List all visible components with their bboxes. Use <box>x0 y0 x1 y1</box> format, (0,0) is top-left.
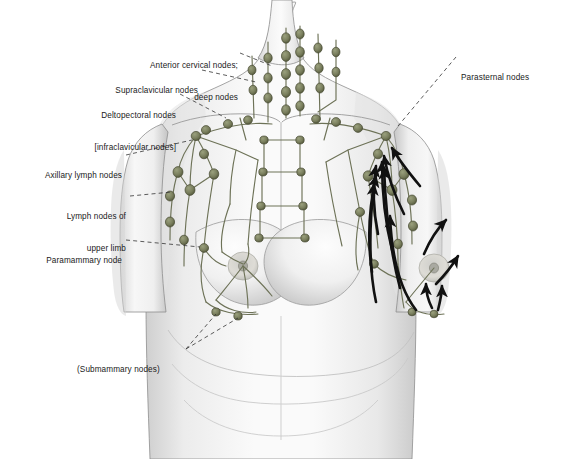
node-supraclavicular <box>312 115 321 123</box>
node-submammary <box>234 312 242 320</box>
node-parasternal <box>257 202 265 210</box>
node-cervical-deep <box>315 63 323 73</box>
node-cervical <box>282 105 291 115</box>
node-submammary-r <box>430 310 438 318</box>
node-parasternal <box>297 168 305 176</box>
node-cervical-deep <box>264 53 272 63</box>
node-axillary <box>209 169 219 179</box>
node-upper-limb-r <box>407 195 416 205</box>
label-axillary-lymph-nodes: Axillary lymph nodes <box>14 150 122 192</box>
node-deltopectoral <box>191 131 201 140</box>
node-cervical-lateral <box>332 47 340 57</box>
label-submammary-nodes: (Submammary nodes) <box>77 344 187 386</box>
label-parasternal-nodes: Parasternal nodes <box>461 52 561 94</box>
node-parasternal <box>255 234 263 242</box>
label-deltopectoral-line1: Deltopectoral nodes <box>54 111 176 122</box>
node-parasternal <box>296 136 304 144</box>
node-supraclavicular <box>331 118 340 127</box>
node-cervical <box>296 83 305 93</box>
node-parasternal <box>299 202 307 210</box>
node-submammary <box>212 308 220 316</box>
node-cervical-lateral <box>248 65 256 75</box>
label-submammary-line1: (Submammary nodes) <box>77 365 187 376</box>
node-supraclavicular <box>244 116 253 124</box>
node-cervical <box>296 29 304 39</box>
node-paramammary <box>199 244 208 253</box>
node-axillary-r <box>373 149 382 159</box>
node-cervical <box>282 33 291 43</box>
node-paramammary-r <box>355 208 364 217</box>
node-axillary-r <box>363 171 373 181</box>
node-upper-limb-r <box>408 221 417 231</box>
node-cervical <box>281 87 290 98</box>
node-upper-limb <box>165 217 174 227</box>
node-supraclavicular <box>223 120 232 129</box>
label-paramammary-line1: Paramammary node <box>18 256 122 267</box>
node-cervical <box>296 65 305 75</box>
node-cervical-lateral <box>249 85 257 95</box>
node-cervical-deep <box>316 83 324 93</box>
label-upper-limb-line1: Lymph nodes of <box>26 212 126 223</box>
node-axillary <box>173 167 183 178</box>
node-upper-limb-r <box>394 239 403 249</box>
label-axillary-line1: Axillary lymph nodes <box>14 171 122 182</box>
node-upper-limb <box>180 235 189 245</box>
node-cervical <box>281 51 290 62</box>
node-cervical-deep <box>314 43 322 53</box>
node-deltopectoral-r <box>381 131 391 140</box>
node-cervical <box>296 47 305 57</box>
node-parasternal <box>301 234 309 242</box>
node-axillary <box>199 149 208 159</box>
node-parasternal <box>259 168 267 176</box>
node-parasternal <box>260 136 268 144</box>
node-cervical <box>296 101 304 111</box>
label-parasternal-line1: Parasternal nodes <box>461 73 561 84</box>
node-axillary <box>185 185 195 196</box>
node-cervical-deep <box>264 73 272 83</box>
node-cervical-lateral <box>332 67 340 77</box>
node-supraclavicular <box>353 124 362 133</box>
node-cervical <box>281 69 290 80</box>
node-supraclavicular <box>201 126 210 135</box>
node-cervical-deep <box>264 93 272 103</box>
label-paramammary-node: Paramammary node <box>18 235 122 277</box>
